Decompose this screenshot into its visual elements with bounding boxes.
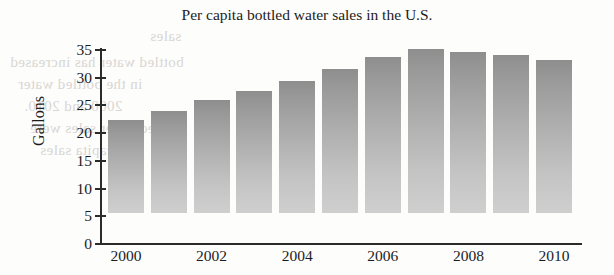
bar	[408, 49, 444, 213]
x-axis-tick-label: 2006	[348, 247, 418, 265]
x-axis-tick-label: 2002	[177, 247, 247, 265]
bar-series	[0, 0, 614, 245]
bar	[536, 60, 572, 213]
bar	[279, 81, 315, 213]
x-axis-tick-label: 2004	[262, 247, 332, 265]
bar	[194, 100, 230, 213]
chart-figure: sales bottled water has increased in the…	[0, 0, 614, 275]
x-axis-tick-label: 2010	[519, 247, 589, 265]
bar	[322, 69, 358, 213]
bar	[236, 91, 272, 213]
bar	[493, 55, 529, 213]
bar	[365, 57, 401, 213]
bar	[450, 52, 486, 213]
plot-area: Gallons 05101520253035 20002002200420062…	[0, 0, 614, 275]
x-axis-tick-label: 2000	[91, 247, 161, 265]
x-axis-tick-label: 2008	[433, 247, 503, 265]
bar	[151, 111, 187, 213]
bar	[108, 120, 144, 213]
